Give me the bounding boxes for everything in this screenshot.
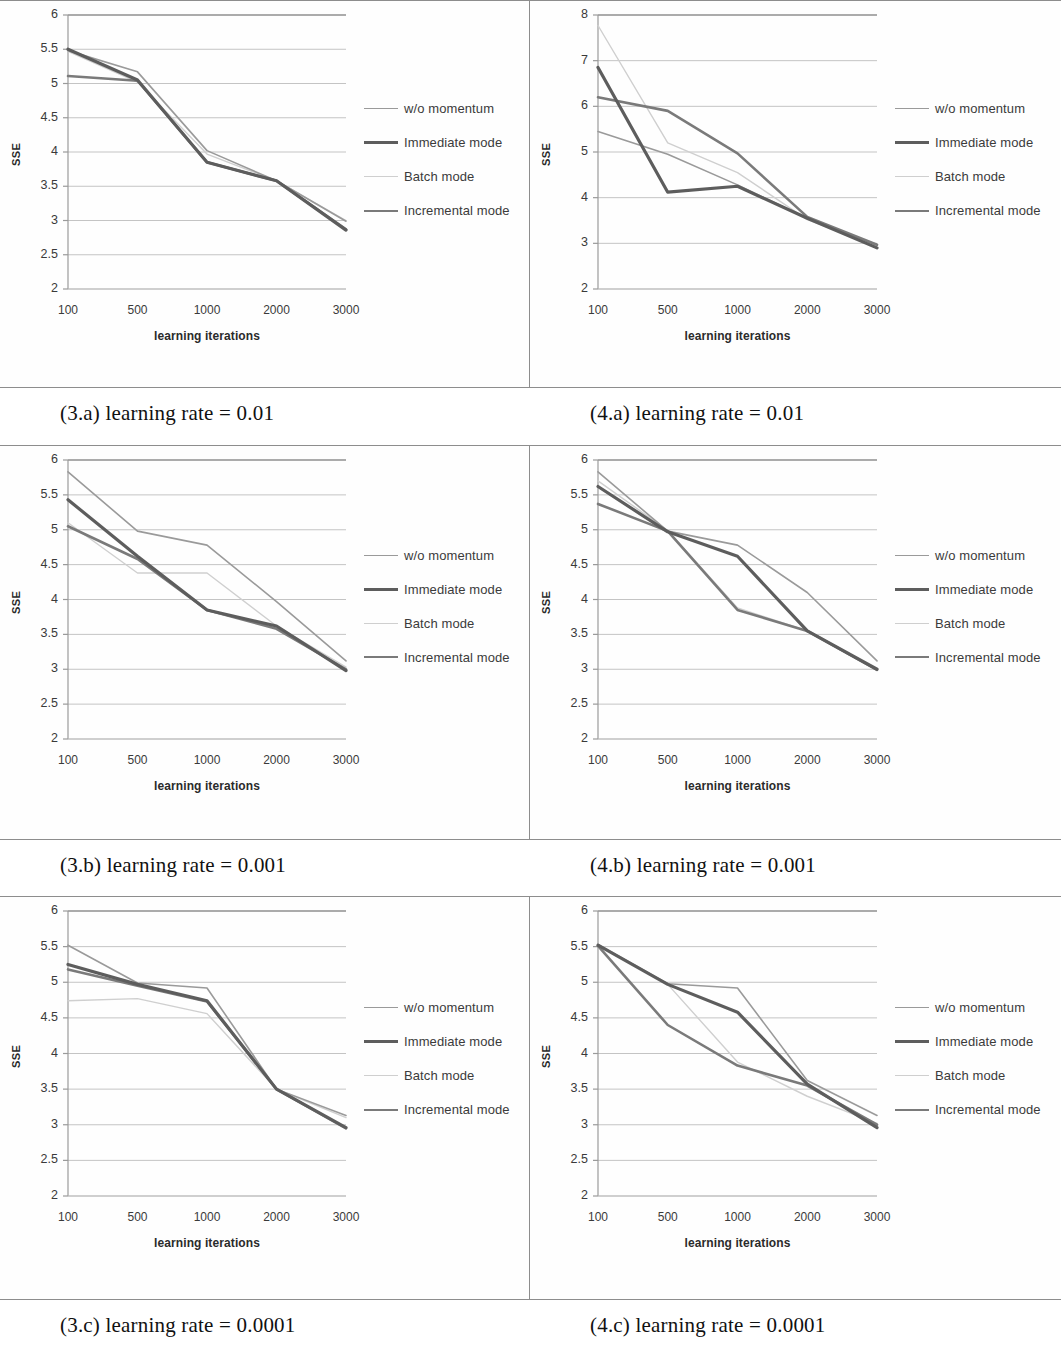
legend-item-immediate[interactable]: Immediate mode: [364, 126, 510, 160]
y-tick-label: 4.5: [24, 110, 58, 124]
legend-item-immediate[interactable]: Immediate mode: [895, 126, 1041, 160]
y-tick-label: 3.5: [24, 1081, 58, 1095]
x-tick-label: 500: [643, 303, 693, 317]
legend-item-wo_momentum[interactable]: w/o momentum: [895, 991, 1041, 1025]
y-tick-label: 5.5: [554, 939, 588, 953]
legend-swatch-icon: [364, 108, 398, 109]
legend-swatch-icon: [895, 623, 929, 624]
x-tick-label: 1000: [182, 1210, 232, 1224]
legend-item-wo_momentum[interactable]: w/o momentum: [364, 538, 510, 572]
y-tick-label: 4.5: [24, 1010, 58, 1024]
y-tick-label: 3.5: [554, 626, 588, 640]
y-tick-label: 6: [24, 7, 58, 21]
legend-label: Batch mode: [935, 616, 1005, 631]
y-tick-label: 7: [554, 53, 588, 67]
series-line-batch: [598, 481, 877, 669]
legend-label: w/o momentum: [404, 101, 494, 116]
legend-swatch-icon: [895, 555, 929, 556]
y-tick-label: 2: [24, 281, 58, 295]
x-tick-label: 1000: [182, 303, 232, 317]
y-tick-label: 4: [554, 190, 588, 204]
x-tick-label: 1000: [713, 1210, 763, 1224]
y-tick-label: 4.5: [554, 1010, 588, 1024]
y-tick-label: 2.5: [24, 696, 58, 710]
legend-item-batch[interactable]: Batch mode: [364, 160, 510, 194]
chart-legend: w/o momentumImmediate modeBatch modeIncr…: [364, 991, 510, 1127]
legend-swatch-icon: [364, 1109, 398, 1111]
legend-item-incremental[interactable]: Incremental mode: [364, 194, 510, 228]
legend-swatch-icon: [364, 210, 398, 212]
legend-label: Incremental mode: [404, 203, 510, 218]
legend-item-immediate[interactable]: Immediate mode: [895, 572, 1041, 606]
legend-swatch-icon: [364, 555, 398, 556]
legend-label: Batch mode: [935, 1068, 1005, 1083]
y-tick-label: 4: [24, 144, 58, 158]
legend-item-incremental[interactable]: Incremental mode: [895, 1093, 1041, 1127]
x-axis-title: learning iterations: [68, 329, 346, 343]
y-tick-label: 2: [554, 731, 588, 745]
legend-item-wo_momentum[interactable]: w/o momentum: [895, 538, 1041, 572]
legend-item-incremental[interactable]: Incremental mode: [364, 640, 510, 674]
y-tick-label: 6: [554, 98, 588, 112]
series-line-batch: [598, 26, 877, 246]
series-line-batch: [68, 51, 346, 220]
legend-item-immediate[interactable]: Immediate mode: [364, 572, 510, 606]
legend-label: w/o momentum: [935, 548, 1025, 563]
x-tick-label: 2000: [252, 1210, 302, 1224]
y-axis-title: SSE: [540, 143, 552, 166]
y-tick-label: 3: [554, 235, 588, 249]
legend-label: Immediate mode: [935, 1034, 1033, 1049]
y-tick-label: 3.5: [24, 178, 58, 192]
legend-item-wo_momentum[interactable]: w/o momentum: [364, 92, 510, 126]
legend-label: Incremental mode: [935, 1102, 1041, 1117]
legend-label: w/o momentum: [935, 101, 1025, 116]
legend-item-batch[interactable]: Batch mode: [895, 160, 1041, 194]
caption-3c: (3.c) learning rate = 0.0001: [0, 1300, 530, 1358]
y-tick-label: 2.5: [554, 696, 588, 710]
y-tick-label: 4: [554, 592, 588, 606]
y-tick-label: 8: [554, 7, 588, 21]
legend-item-incremental[interactable]: Incremental mode: [364, 1093, 510, 1127]
legend-label: Immediate mode: [404, 135, 502, 150]
series-line-wo_momentum: [68, 51, 346, 222]
x-tick-label: 1000: [713, 753, 763, 767]
y-tick-label: 6: [24, 452, 58, 466]
x-axis-title: learning iterations: [598, 1236, 877, 1250]
legend-item-immediate[interactable]: Immediate mode: [895, 1025, 1041, 1059]
series-line-immediate: [68, 49, 346, 230]
chart-panel-3a: 22.533.544.555.56SSE100500100020003000le…: [0, 1, 530, 387]
caption-4c: (4.c) learning rate = 0.0001: [530, 1300, 1061, 1358]
y-tick-label: 2.5: [24, 247, 58, 261]
legend-item-batch[interactable]: Batch mode: [364, 606, 510, 640]
legend-label: w/o momentum: [935, 1000, 1025, 1015]
legend-swatch-icon: [364, 141, 398, 144]
caption-row-b: (3.b) learning rate = 0.001 (4.b) learni…: [0, 840, 1061, 896]
y-tick-label: 4.5: [24, 557, 58, 571]
caption-row-c: (3.c) learning rate = 0.0001 (4.c) learn…: [0, 1300, 1061, 1358]
y-tick-label: 3.5: [24, 626, 58, 640]
legend-item-incremental[interactable]: Incremental mode: [895, 640, 1041, 674]
x-tick-label: 2000: [252, 753, 302, 767]
legend-item-batch[interactable]: Batch mode: [895, 606, 1041, 640]
legend-item-batch[interactable]: Batch mode: [895, 1059, 1041, 1093]
panel-row-a: 22.533.544.555.56SSE100500100020003000le…: [0, 0, 1061, 388]
legend-swatch-icon: [364, 656, 398, 658]
legend-label: Batch mode: [935, 169, 1005, 184]
legend-label: Batch mode: [404, 169, 474, 184]
legend-swatch-icon: [364, 176, 398, 177]
legend-item-immediate[interactable]: Immediate mode: [364, 1025, 510, 1059]
legend-item-incremental[interactable]: Incremental mode: [895, 194, 1041, 228]
legend-item-wo_momentum[interactable]: w/o momentum: [364, 991, 510, 1025]
legend-item-batch[interactable]: Batch mode: [364, 1059, 510, 1093]
y-tick-label: 2: [554, 281, 588, 295]
legend-label: Incremental mode: [404, 1102, 510, 1117]
y-tick-label: 5: [554, 144, 588, 158]
legend-item-wo_momentum[interactable]: w/o momentum: [895, 92, 1041, 126]
legend-label: Batch mode: [404, 616, 474, 631]
x-tick-label: 100: [573, 303, 623, 317]
legend-swatch-icon: [895, 1040, 929, 1043]
y-tick-label: 6: [24, 903, 58, 917]
series-line-immediate: [598, 487, 877, 670]
series-line-immediate: [68, 500, 346, 671]
y-tick-label: 5.5: [554, 487, 588, 501]
